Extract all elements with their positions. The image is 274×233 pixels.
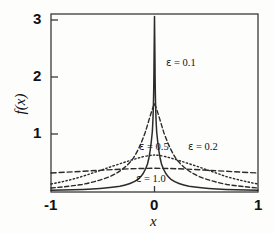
epsilon-value: 1.0 [153, 173, 166, 184]
annotation-eps-0-1: ε = 0.1 [166, 58, 196, 69]
epsilon-relation: = [171, 57, 182, 68]
y-axis-ticks [51, 20, 58, 134]
epsilon-relation: = [193, 141, 204, 152]
annotation-eps-0-2: ε = 0.2 [188, 142, 218, 153]
epsilon-value: 0.2 [205, 141, 218, 152]
x-axis-title: x [150, 214, 157, 229]
x-tick-label-0: 0 [150, 197, 158, 212]
annotation-eps-1-0: ε = 1.0 [136, 174, 166, 185]
epsilon-relation: = [144, 141, 155, 152]
epsilon-value: 0.5 [156, 141, 169, 152]
y-tick-label-1: 1 [33, 125, 41, 140]
figure-container: 3 2 1 -1 0 1 f(x) x ε = 0.1 ε = 0.2 ε = … [0, 0, 274, 233]
epsilon-value: 0.1 [183, 57, 196, 68]
epsilon-relation: = [141, 173, 152, 184]
x-tick-label-1: 1 [254, 197, 262, 212]
y-axis-title: f(x) [0, 93, 40, 115]
y-tick-label-2: 2 [33, 68, 41, 83]
x-tick-label-minus-1: -1 [44, 197, 57, 212]
annotation-eps-0-5: ε = 0.5 [139, 142, 169, 153]
plot-canvas [0, 0, 274, 233]
curves-group [51, 16, 258, 190]
y-tick-label-3: 3 [33, 11, 41, 26]
